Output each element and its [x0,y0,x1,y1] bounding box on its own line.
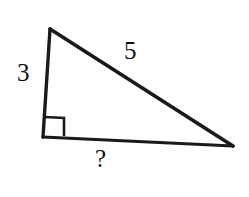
triangle-side-hypotenuse [50,29,233,146]
right-triangle-figure [0,0,249,197]
side-label-hypotenuse: 5 [124,38,137,63]
triangle-diagram-canvas: 3 5 ? [0,0,249,197]
triangle-side-vertical-leg [43,29,50,137]
right-angle-square-icon [45,117,64,136]
triangle-side-horizontal-leg [43,137,233,146]
side-label-horizontal-leg: ? [95,146,106,171]
side-label-vertical-leg: 3 [17,60,30,85]
